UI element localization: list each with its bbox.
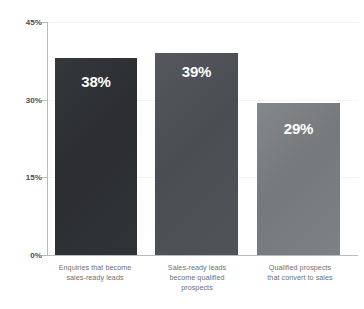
bar-value-label-3: 29% — [257, 121, 340, 137]
bar-leads-to-prospects[interactable]: 39% — [155, 53, 238, 255]
bar-value-label-2: 39% — [155, 64, 238, 80]
x-axis-line — [47, 255, 358, 256]
y-tick-label-45: 45% — [6, 18, 42, 27]
category-label-1-line1: Enquiries that become — [40, 263, 150, 273]
category-label-2-line2: become qualified — [142, 273, 252, 283]
plot-area: 38% 39% 29% — [47, 22, 358, 255]
category-label-3-line2: that convert to sales — [244, 273, 356, 283]
y-tick-label-30: 30% — [6, 96, 42, 105]
y-tick-mark-30 — [41, 100, 48, 101]
bar-prospects-to-sales[interactable]: 29% — [257, 103, 340, 255]
category-label-3-line1: Qualified prospects — [244, 263, 356, 273]
y-tick-mark-15 — [41, 177, 48, 178]
bar-chart: 38% 39% 29% 45% 30% 15% 0% Enquiries tha… — [0, 0, 364, 309]
category-label-2-line3: prospects — [142, 283, 252, 293]
category-label-3: Qualified prospects that convert to sale… — [244, 263, 356, 283]
y-tick-mark-45 — [41, 22, 48, 23]
bar-value-label-1: 38% — [55, 74, 137, 90]
y-tick-label-0: 0% — [6, 251, 42, 260]
category-label-1-line2: sales-ready leads — [40, 273, 150, 283]
y-axis-line — [47, 22, 48, 256]
category-label-2-line1: Sales-ready leads — [142, 263, 252, 273]
category-label-2: Sales-ready leads become qualified prosp… — [142, 263, 252, 293]
gridline-45 — [47, 22, 358, 23]
category-label-1: Enquiries that become sales-ready leads — [40, 263, 150, 283]
bar-enquiries-to-leads[interactable]: 38% — [55, 58, 137, 255]
y-tick-label-15: 15% — [6, 173, 42, 182]
y-tick-mark-0 — [41, 255, 48, 256]
bar-fill-2 — [155, 53, 238, 255]
